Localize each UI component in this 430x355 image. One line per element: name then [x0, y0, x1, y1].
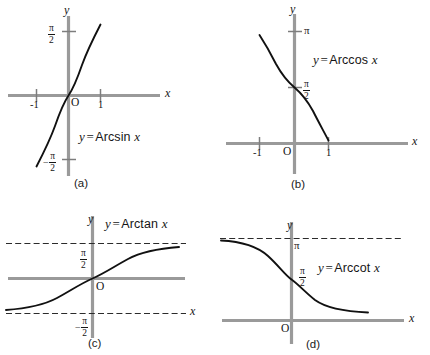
- panel-a-neg-frac-denominator: 2: [49, 162, 56, 173]
- panel-a-x-axis-label: x: [165, 87, 170, 99]
- panel-c-neg-frac-numerator: π: [81, 317, 88, 327]
- panel-c-y-axis-label: y: [88, 213, 93, 225]
- panel-d-y-tick-label-pi: π: [294, 240, 300, 251]
- panel-c-eq-equals: =: [111, 216, 121, 231]
- panel-c-frac-denominator: 2: [80, 259, 87, 270]
- panel-a-x-tick-label-pos1: 1: [98, 100, 103, 111]
- panel-c-y-tick-label-pi-over-2: π 2: [80, 249, 87, 270]
- panel-b-y-tick-label-pi: π: [304, 25, 310, 36]
- panel-b-caption: (b): [291, 179, 305, 191]
- panel-d-frac-numerator: π: [299, 267, 306, 277]
- panel-a-frac-denominator: 2: [48, 34, 55, 45]
- panel-b-frac-denominator: 2: [303, 90, 310, 101]
- panel-c-origin-label: O: [96, 281, 104, 293]
- panel-c-equation-label: y=Arctan x: [105, 217, 168, 231]
- panel-b-y-tick-label-pi-over-2: π 2: [303, 80, 310, 101]
- panel-a-eq-arg: x: [134, 129, 140, 144]
- panel-a-graphics: [8, 16, 160, 176]
- panel-b-y-axis-label: y: [290, 3, 295, 15]
- panel-a-y-axis-label: y: [64, 4, 69, 16]
- panel-a-eq-equals: =: [85, 129, 95, 144]
- panel-b-eq-equals: =: [319, 52, 329, 67]
- panel-b-x-axis-label: x: [412, 135, 417, 147]
- panel-b-eq-y: y: [313, 52, 319, 67]
- panel-a-equation-label: y=Arcsin x: [79, 130, 140, 144]
- panel-d-curve-arccot: [221, 241, 368, 313]
- panel-a-caption: (a): [74, 178, 88, 190]
- panel-c-graphics: [6, 216, 186, 338]
- panel-b-origin-label: O: [283, 146, 291, 158]
- panel-c-neg-frac-denominator: 2: [81, 327, 88, 338]
- panel-d-eq-y: y: [318, 260, 324, 275]
- panel-a-eq-expr: Arcsin: [95, 130, 130, 144]
- panel-a-x-tick-label-neg1: -1: [30, 100, 39, 111]
- panel-d-y-tick-label-pi-over-2: π 2: [299, 267, 306, 288]
- panel-d-x-axis-label: x: [409, 312, 414, 324]
- panel-a-frac-numerator: π: [48, 24, 55, 34]
- panel-c-caption: (c): [88, 338, 101, 350]
- panel-d-y-axis-label: y: [287, 219, 292, 231]
- panel-c-eq-arg: x: [162, 216, 168, 231]
- panel-c-eq-y: y: [105, 216, 111, 231]
- panel-b-eq-arg: x: [372, 52, 378, 67]
- panel-a-y-tick-label-pi-over-2: π 2: [48, 24, 55, 45]
- panel-a-neg-frac-numerator: π: [49, 152, 56, 162]
- panel-c-x-axis-label: x: [190, 305, 195, 317]
- panel-b-equation-label: y=Arccos x: [313, 53, 378, 67]
- panel-b-x-tick-label-neg1: -1: [253, 148, 262, 159]
- panel-d-graphics: [220, 222, 404, 344]
- panel-a-origin-label: O: [71, 97, 79, 109]
- inverse-trig-figure: y x O -1 1 π 2 − π 2 y=Arcsin x (a) y x …: [0, 0, 430, 355]
- panel-d-origin-label: O: [281, 323, 289, 335]
- panel-b-frac-numerator: π: [303, 80, 310, 90]
- panel-b-eq-expr: Arccos: [329, 53, 368, 67]
- panel-c-y-tick-label-neg-pi-over-2: − π 2: [75, 317, 88, 338]
- panel-d-caption: (d): [306, 339, 320, 351]
- panel-b-x-tick-label-pos1: 1: [326, 148, 331, 159]
- panel-a-y-tick-label-neg-pi-over-2: − π 2: [43, 152, 56, 173]
- panel-d-eq-equals: =: [324, 260, 334, 275]
- panel-a-eq-y: y: [79, 129, 85, 144]
- panel-d-equation-label: y=Arccot x: [318, 261, 380, 275]
- panel-d-frac-denominator: 2: [299, 277, 306, 288]
- panel-d-eq-expr: Arccot: [334, 261, 370, 275]
- panel-c-frac-numerator: π: [80, 249, 87, 259]
- panel-c-eq-expr: Arctan: [121, 217, 158, 231]
- panel-d-eq-arg: x: [374, 260, 380, 275]
